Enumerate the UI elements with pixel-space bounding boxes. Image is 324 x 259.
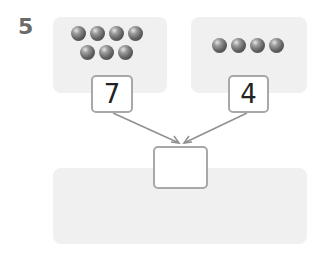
arrows — [0, 0, 324, 259]
left-count-box: 7 — [91, 75, 133, 113]
arrow-right — [184, 113, 247, 143]
arrow-left — [113, 113, 179, 143]
right-count-box: 4 — [228, 75, 269, 113]
answer-box[interactable] — [153, 146, 208, 189]
